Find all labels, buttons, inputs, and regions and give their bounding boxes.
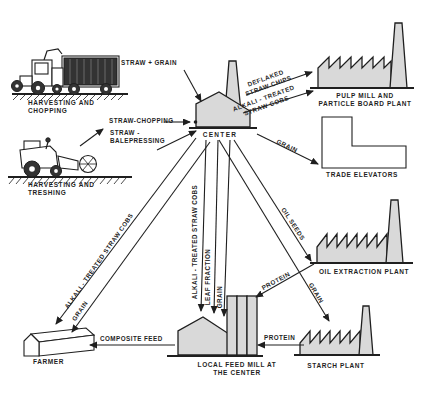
straw-chopping-node-dot [194, 120, 198, 124]
oil-extraction-building [310, 200, 413, 263]
harvesting-chopping-label: HARVESTING AND CHOPPING [28, 99, 95, 115]
center-label: CENTER [203, 131, 238, 139]
feed-mill-building [167, 296, 263, 356]
farmer-barn [24, 328, 94, 356]
farmer-label: FARMER [33, 358, 64, 366]
trade-elevators-building [322, 117, 406, 168]
grain-to-feedmill-arrow [224, 140, 230, 316]
trade-elevators-label: TRADE ELEVATORS [326, 171, 398, 179]
forage-harvester-illustration [12, 49, 129, 100]
straw-grain-arrow [184, 70, 201, 101]
pulp-mill-label: PULP MILL AND PARTICLE BOARD PLANT [318, 92, 411, 108]
straw-balepressing-label: STRAW - BALEPRESSING [110, 129, 165, 145]
combine-harvester-illustration [8, 138, 132, 184]
composite-feed-label: COMPOSITE FEED [100, 335, 163, 343]
harvesting-threshing-label: HARVESTING AND TRESHING [28, 181, 95, 197]
protein-from-starch-label: PROTEIN [264, 334, 295, 342]
leaf-fraction-label: LEAF FRACTION [204, 249, 212, 306]
alkali-to-feedmill-label: ALKALI - TREATED STRAW COBS [191, 185, 199, 300]
grain-to-feedmill-label: GRAIN [216, 286, 224, 309]
straw-grain-label: STRAW + GRAIN [121, 59, 177, 67]
chopping-connector-arrow [80, 129, 103, 146]
starch-plant-label: STARCH PLANT [307, 362, 364, 370]
starch-plant-building [294, 306, 380, 355]
oil-seeds-arrow [234, 140, 311, 261]
pulp-mill-building [310, 23, 414, 88]
flow-diagram: HARVESTING AND CHOPPING HARVESTING AND T… [0, 0, 431, 395]
feed-mill-label: LOCAL FEED MILL AT THE CENTER [198, 361, 277, 377]
diagram-canvas [0, 0, 431, 395]
oil-extraction-label: OIL EXTRACTION PLANT [319, 268, 409, 276]
straw-chopping-label: STRAW-CHOPPING [109, 117, 174, 125]
